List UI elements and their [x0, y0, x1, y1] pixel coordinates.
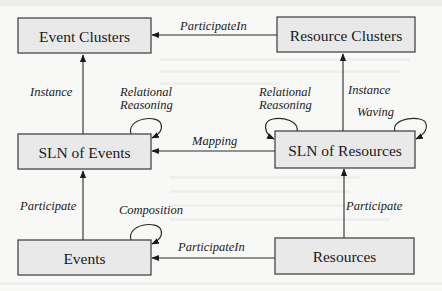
node-label-events: Events	[63, 250, 105, 267]
node-label-sln-resources: SLN of Resources	[288, 142, 402, 159]
edge-label-participate-left: Participate	[19, 199, 77, 213]
node-resource-clusters: Resource Clusters	[277, 17, 415, 52]
node-label-resources: Resources	[313, 248, 377, 265]
edge-label-waving: Waving	[357, 105, 394, 119]
node-event-clusters: Event Clusters	[18, 18, 151, 53]
edge-label-mapping: Mapping	[191, 134, 237, 148]
node-events: Events	[18, 240, 151, 275]
diagram-canvas: ParticipateIn Instance Instance Relation…	[0, 0, 442, 291]
node-resources: Resources	[275, 238, 414, 274]
edge-resources-to-events: ParticipateIn	[152, 240, 275, 258]
edge-label-relational-right-2: Reasoning	[258, 98, 312, 112]
diagram-svg: ParticipateIn Instance Instance Relation…	[0, 0, 442, 291]
edge-sln-events-self-loop: Relational Reasoning	[119, 85, 173, 138]
edge-label-participatein-top: ParticipateIn	[179, 19, 247, 33]
node-sln-resources: SLN of Resources	[275, 131, 415, 168]
edge-label-participatein-bottom: ParticipateIn	[177, 240, 245, 254]
node-sln-events: SLN of Events	[18, 134, 151, 169]
node-label-sln-events: SLN of Events	[38, 144, 130, 161]
edge-label-participate-right: Participate	[345, 199, 403, 213]
node-label-resource-clusters: Resource Clusters	[290, 27, 402, 44]
edge-sln-resources-to-sln-events: Mapping	[152, 134, 275, 151]
edge-resource-clusters-to-event-clusters: ParticipateIn	[152, 19, 277, 35]
edge-events-self-loop: Composition	[119, 203, 183, 244]
edge-sln-events-to-event-clusters: Instance	[29, 55, 83, 134]
edge-label-instance-left: Instance	[29, 85, 73, 99]
edge-label-relational-right-1: Relational	[258, 85, 312, 99]
node-label-event-clusters: Event Clusters	[39, 28, 130, 45]
edge-label-relational-left-1: Relational	[119, 85, 173, 99]
edge-label-instance-right: Instance	[347, 83, 391, 97]
edge-events-to-sln-events: Participate	[19, 171, 83, 240]
edge-sln-resources-to-resource-clusters: Instance	[343, 54, 391, 131]
edge-label-relational-left-2: Reasoning	[119, 98, 173, 112]
edge-resources-to-sln-resources: Participate	[344, 169, 403, 238]
edge-label-composition: Composition	[119, 203, 183, 217]
